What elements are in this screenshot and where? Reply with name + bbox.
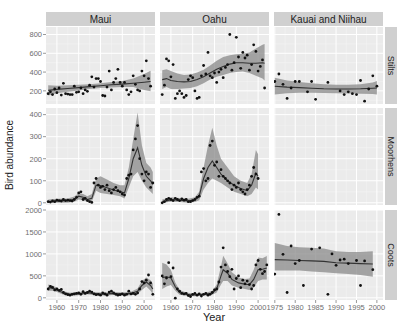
data-point — [222, 175, 225, 178]
data-point — [125, 89, 128, 92]
column-strips: MauiOahuKauai and Niihau — [46, 12, 383, 26]
data-point — [151, 293, 154, 296]
data-point — [62, 82, 65, 85]
x-tick-label: 1990 — [328, 303, 345, 312]
data-point — [167, 261, 170, 264]
data-point — [151, 182, 154, 185]
data-point — [183, 96, 186, 99]
data-point — [141, 173, 144, 176]
data-point — [246, 54, 249, 57]
data-point — [134, 83, 137, 86]
data-point — [147, 173, 150, 176]
data-point — [207, 51, 210, 54]
data-point — [60, 288, 63, 291]
data-point — [99, 80, 102, 83]
data-point — [123, 194, 126, 197]
data-point — [194, 292, 197, 295]
data-point — [194, 198, 197, 201]
data-point — [80, 87, 83, 90]
data-point — [244, 282, 247, 285]
data-point — [73, 85, 76, 88]
data-point — [141, 70, 144, 73]
data-point — [132, 149, 135, 152]
data-point — [215, 288, 218, 291]
data-point — [49, 90, 52, 93]
data-point — [209, 74, 212, 77]
data-point — [191, 76, 194, 79]
row-strip-label: Moorhens — [386, 136, 396, 177]
row-strip-label: Stilts — [386, 56, 396, 76]
data-point — [335, 264, 338, 267]
data-point — [60, 94, 63, 97]
data-point — [239, 67, 242, 70]
data-point — [112, 81, 115, 84]
data-point — [244, 57, 247, 60]
x-tick-label: 1975 — [266, 303, 283, 312]
data-point — [97, 184, 100, 187]
data-point — [82, 92, 85, 95]
data-point — [231, 268, 234, 271]
data-point — [170, 275, 173, 278]
data-point — [108, 189, 111, 192]
data-point — [246, 188, 249, 191]
data-point — [343, 93, 346, 96]
x-tick-label: 1960 — [163, 303, 180, 312]
data-point — [101, 185, 104, 188]
data-point — [99, 294, 102, 297]
data-point — [228, 33, 231, 36]
data-point — [149, 85, 152, 88]
data-point — [250, 175, 253, 178]
data-point — [204, 179, 207, 182]
data-point — [147, 274, 150, 277]
data-point — [237, 275, 240, 278]
data-point — [235, 277, 238, 280]
data-point — [209, 144, 212, 147]
data-point — [58, 87, 61, 90]
data-point — [207, 177, 210, 180]
data-point — [200, 74, 203, 77]
data-point — [130, 90, 133, 93]
data-point — [80, 293, 83, 296]
x-axis-title: Year — [203, 311, 226, 323]
data-point — [165, 277, 168, 280]
data-point — [250, 63, 253, 66]
data-point — [84, 197, 87, 200]
data-point — [104, 95, 107, 98]
data-point — [174, 297, 177, 300]
data-point — [252, 284, 255, 287]
data-point — [259, 268, 262, 271]
data-point — [106, 184, 109, 187]
data-point — [231, 69, 234, 72]
data-point — [53, 88, 56, 91]
data-point — [363, 260, 366, 263]
x-tick-label: 1995 — [348, 303, 365, 312]
data-point — [86, 90, 89, 93]
data-point — [265, 264, 268, 267]
data-point — [252, 166, 255, 169]
data-point — [218, 71, 221, 74]
data-point — [327, 293, 330, 296]
data-point — [298, 259, 301, 262]
data-point — [143, 74, 146, 77]
data-point — [255, 50, 258, 53]
data-point — [209, 293, 212, 296]
data-point — [134, 138, 137, 141]
data-point — [165, 58, 168, 61]
data-point — [327, 81, 330, 84]
data-point — [239, 286, 242, 289]
data-point — [110, 290, 113, 293]
data-point — [220, 68, 223, 71]
data-point — [106, 294, 109, 297]
data-point — [163, 282, 166, 285]
data-point — [220, 168, 223, 171]
data-point — [71, 93, 74, 96]
data-point — [237, 56, 240, 59]
data-point — [224, 264, 227, 267]
data-point — [222, 246, 225, 249]
data-point — [351, 92, 354, 95]
x-tick-label: 2000 — [136, 303, 153, 312]
data-point — [241, 51, 244, 54]
data-point — [51, 93, 54, 96]
data-point — [163, 200, 166, 203]
data-point — [255, 264, 258, 267]
